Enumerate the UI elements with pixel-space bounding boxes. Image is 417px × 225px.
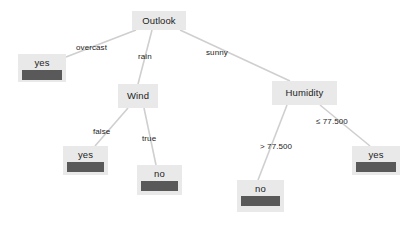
leaf-node-label: yes (63, 149, 108, 160)
leaf-node-distribution-bar-wrap (352, 160, 400, 176)
edge-layer (0, 0, 417, 225)
decision-node-label: Wind (127, 91, 149, 101)
leaf-node-label: no (137, 168, 182, 179)
leaf-node-leaf_humidity_le_yes[interactable]: yes (352, 146, 400, 175)
leaf-node-label: no (237, 183, 284, 194)
edge-label-outlook-to-humidity: sunny (206, 48, 228, 57)
leaf-node-distribution-bar (241, 196, 280, 206)
edge-label-outlook-to-leaf_overcast_yes: overcast (76, 43, 107, 52)
leaf-node-distribution-bar-wrap (63, 160, 108, 176)
edge-label-wind-to-leaf_wind_false_yes: false (93, 127, 110, 136)
edge-label-wind-to-leaf_wind_true_no: true (142, 134, 156, 143)
decision-node-label: Outlook (142, 16, 175, 26)
edge-label-humidity-to-leaf_humidity_gt_no: > 77.500 (260, 142, 292, 151)
leaf-node-leaf_wind_false_yes[interactable]: yes (63, 146, 108, 175)
leaf-node-distribution-bar-wrap (18, 68, 66, 84)
leaf-node-distribution-bar (22, 70, 62, 80)
decision-node-label: Humidity (286, 88, 324, 98)
decision-node-outlook[interactable]: Outlook (132, 11, 186, 30)
decision-node-wind[interactable]: Wind (118, 84, 158, 108)
edge-label-humidity-to-leaf_humidity_le_yes: ≤ 77.500 (316, 117, 348, 126)
leaf-node-leaf_humidity_gt_no[interactable]: no (237, 180, 284, 212)
edge-outlook-sunny (180, 30, 290, 81)
decision-node-humidity[interactable]: Humidity (272, 81, 337, 105)
decision-tree-diagram: OutlookyesWindHumidityyesnonoyes overcas… (0, 0, 417, 225)
edge-label-outlook-to-wind: rain (138, 52, 152, 61)
leaf-node-distribution-bar (141, 181, 178, 191)
leaf-node-distribution-bar-wrap (137, 179, 182, 195)
leaf-node-distribution-bar (356, 162, 396, 172)
leaf-node-leaf_wind_true_no[interactable]: no (137, 165, 182, 195)
leaf-node-distribution-bar-wrap (237, 194, 284, 210)
leaf-node-label: yes (352, 149, 400, 160)
leaf-node-distribution-bar (67, 162, 104, 172)
leaf-node-label: yes (18, 57, 66, 68)
leaf-node-leaf_overcast_yes[interactable]: yes (18, 54, 66, 82)
